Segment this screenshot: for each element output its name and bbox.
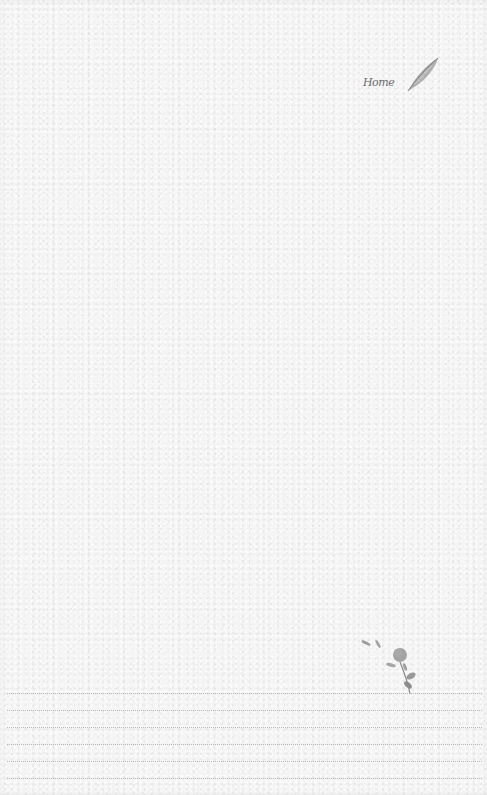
writing-line[interactable] [7,710,482,711]
notepaper: Home [0,0,487,795]
writing-lines [7,693,482,795]
writing-line[interactable] [7,778,482,779]
quill-icon [406,56,440,92]
writing-line[interactable] [7,693,482,694]
rose-sprig-icon [358,638,424,696]
writing-line[interactable] [7,727,482,728]
writing-line[interactable] [7,761,482,762]
signature-text: Home [363,76,394,89]
writing-line[interactable] [7,744,482,745]
